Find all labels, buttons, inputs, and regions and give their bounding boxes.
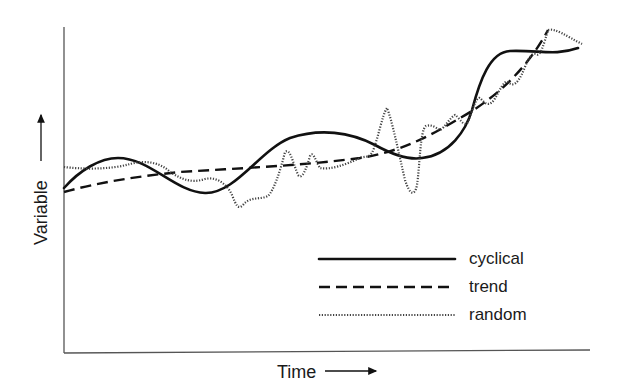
legend-label-trend: trend: [469, 277, 508, 296]
legend-item-random: random: [319, 305, 527, 324]
x-axis: [64, 350, 590, 353]
x-axis-label-group: Time: [277, 362, 376, 382]
random-series-line: [64, 30, 582, 207]
trend-series-line: [64, 30, 548, 192]
x-axis-label: Time: [277, 362, 316, 382]
cyclical-series-line: [64, 48, 578, 193]
legend-item-trend: trend: [319, 277, 508, 296]
time-series-components-chart: Variable Time cyclical trend random: [0, 0, 623, 392]
legend-label-random: random: [469, 305, 527, 324]
y-axis-label: Variable: [31, 180, 51, 245]
legend-item-cyclical: cyclical: [319, 249, 524, 268]
legend: cyclical trend random: [319, 249, 527, 324]
y-axis-label-group: Variable: [31, 115, 51, 245]
legend-label-cyclical: cyclical: [469, 249, 524, 268]
